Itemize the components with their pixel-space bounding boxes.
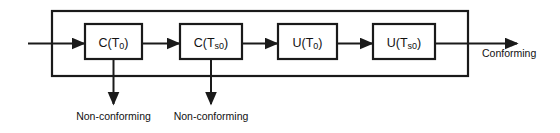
non-conforming-label-1: Non-conforming — [76, 110, 151, 122]
non-conforming-label-2: Non-conforming — [174, 110, 249, 122]
conforming-output-label: Conforming — [482, 47, 536, 59]
block-u-t0-label: U(T0) — [292, 36, 322, 51]
block-c-t0-label: C(T0) — [98, 36, 128, 51]
flow-diagram-svg: C(T0) C(Ts0) U(T0) U(Ts0) Conforming Non… — [0, 0, 560, 133]
block-diagram-canvas: C(T0) C(Ts0) U(T0) U(Ts0) Conforming Non… — [0, 0, 560, 133]
